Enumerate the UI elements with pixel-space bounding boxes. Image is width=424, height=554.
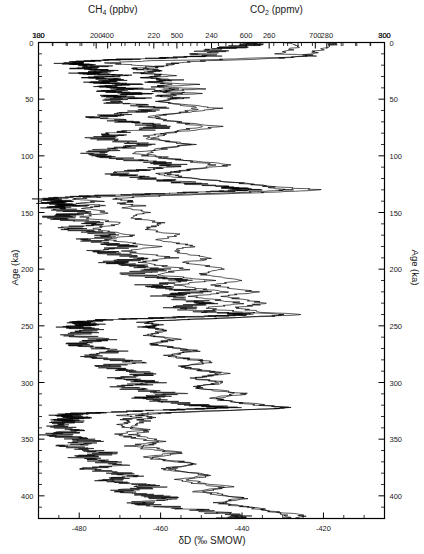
svg-text:400: 400 [101, 31, 114, 40]
svg-text:400: 400 [21, 492, 34, 501]
svg-text:200: 200 [90, 31, 103, 40]
svg-text:-440: -440 [235, 524, 250, 533]
svg-text:50: 50 [25, 95, 33, 104]
svg-text:100: 100 [390, 152, 403, 161]
svg-text:200: 200 [390, 265, 403, 274]
svg-text:100: 100 [21, 152, 34, 161]
svg-text:300: 300 [390, 379, 403, 388]
svg-text:50: 50 [390, 95, 398, 104]
svg-text:180: 180 [32, 31, 45, 40]
svg-text:350: 350 [390, 435, 403, 444]
svg-text:600: 600 [240, 31, 253, 40]
svg-text:-480: -480 [72, 524, 87, 533]
svg-text:0: 0 [29, 39, 33, 48]
svg-text:-460: -460 [153, 524, 168, 533]
svg-text:250: 250 [21, 322, 34, 331]
svg-text:280: 280 [321, 31, 334, 40]
svg-text:300: 300 [378, 31, 391, 40]
svg-text:500: 500 [171, 31, 184, 40]
plot-canvas: 0050501001001501502002002502503003003503… [0, 0, 424, 554]
svg-text:200: 200 [21, 265, 34, 274]
ice-core-paleoclimate-figure: CH4 (ppbv) CO2 (ppmv) δD (‰ SMOW) Age (k… [0, 0, 424, 554]
svg-text:150: 150 [390, 209, 403, 218]
curve-co2 [113, 43, 338, 519]
data-curves [32, 43, 337, 519]
svg-text:250: 250 [390, 322, 403, 331]
svg-text:-420: -420 [316, 524, 331, 533]
svg-text:150: 150 [21, 209, 34, 218]
curve-ch4 [72, 43, 316, 519]
svg-text:300: 300 [21, 379, 34, 388]
svg-text:220: 220 [148, 31, 161, 40]
svg-text:400: 400 [390, 492, 403, 501]
svg-text:260: 260 [263, 31, 276, 40]
svg-text:240: 240 [205, 31, 218, 40]
svg-text:0: 0 [390, 39, 394, 48]
svg-text:350: 350 [21, 435, 34, 444]
